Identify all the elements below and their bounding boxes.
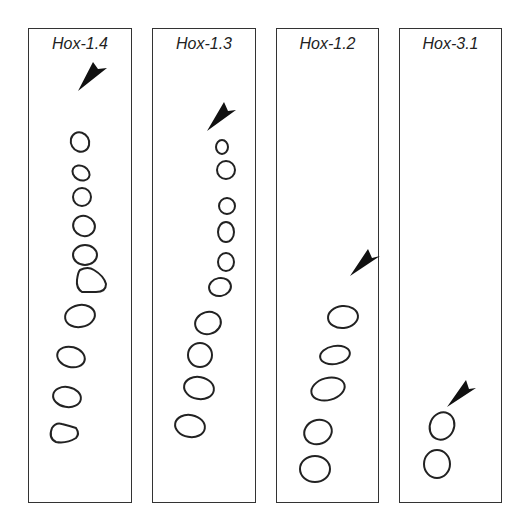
arrowheads xyxy=(78,62,476,407)
arrowhead-icon xyxy=(447,380,476,407)
panel2-somites xyxy=(173,140,235,439)
somite-diagram xyxy=(0,0,529,524)
arrowhead-icon xyxy=(207,102,236,131)
arrowhead-icon xyxy=(350,249,380,276)
panel4-somites xyxy=(424,408,459,478)
panel3-somites xyxy=(300,305,359,482)
panel1-somites xyxy=(51,129,106,443)
arrowhead-icon xyxy=(78,62,107,91)
